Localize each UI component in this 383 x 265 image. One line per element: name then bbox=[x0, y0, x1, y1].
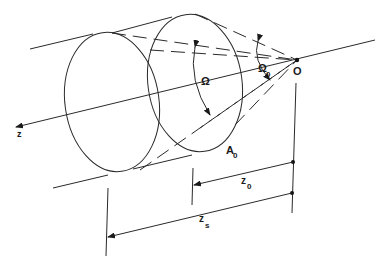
omega0-label-sub: 0 bbox=[266, 70, 271, 79]
z-axis-label: z bbox=[17, 129, 22, 139]
origin-point bbox=[295, 58, 299, 62]
z0-label-sub: 0 bbox=[247, 182, 252, 191]
cylinder-top-line-right bbox=[112, 17, 172, 33]
origin-label: O bbox=[293, 65, 302, 77]
cylinder-solid-angle-diagram: O z Ω Ω 0 A 0 z 0 z s bbox=[0, 0, 383, 265]
zs-label: z s bbox=[199, 213, 210, 230]
cone-line-inner-top bbox=[150, 50, 297, 60]
source-reference-line bbox=[106, 188, 108, 256]
zs-label-main: z bbox=[199, 213, 204, 224]
aperture-reference-line bbox=[192, 168, 193, 205]
z0-label: z 0 bbox=[241, 175, 252, 191]
cone-line-back-top bbox=[112, 33, 297, 60]
aperture-label: A 0 bbox=[226, 144, 238, 160]
aperture-label-sub: 0 bbox=[233, 151, 238, 160]
omega-label: Ω bbox=[201, 75, 210, 87]
cylinder-bottom-line-right bbox=[133, 155, 192, 169]
omega0-label: Ω 0 bbox=[258, 62, 271, 79]
zs-label-sub: s bbox=[205, 221, 210, 230]
cylinder-bottom-line-left bbox=[53, 175, 108, 188]
z0-label-main: z bbox=[241, 175, 246, 186]
